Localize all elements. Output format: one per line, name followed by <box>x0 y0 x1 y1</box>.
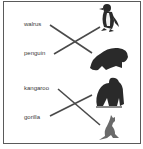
gorilla-icon <box>93 76 127 109</box>
walrus-icon <box>88 44 130 72</box>
match-line-walrus <box>50 25 92 53</box>
kangaroo-icon <box>97 113 123 142</box>
penguin-icon <box>98 3 122 33</box>
